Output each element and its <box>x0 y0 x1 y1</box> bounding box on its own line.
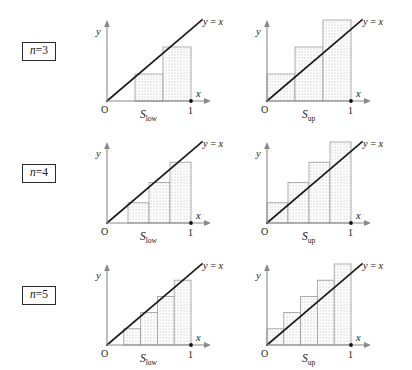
n-label-box-n3: n=3 <box>22 42 56 61</box>
y-axis-arrow-icon <box>264 20 270 27</box>
x-tick-dot-one <box>189 221 193 225</box>
origin-label: O <box>261 226 268 237</box>
function-label-y: y <box>362 138 368 149</box>
lower-sum-subscript: low <box>146 236 158 245</box>
x-tick-dot-one <box>189 343 193 347</box>
x-tick-label-one: 1 <box>188 349 193 360</box>
x-axis-label: x <box>195 332 201 343</box>
function-label-equals: = <box>210 16 216 27</box>
riemann-rect <box>174 280 191 345</box>
y-axis-arrow-icon <box>104 264 110 271</box>
x-axis-arrow-icon <box>204 220 211 226</box>
x-axis-label: x <box>355 332 361 343</box>
y-axis-arrow-icon <box>104 20 110 27</box>
n-label-box-n4: n=4 <box>22 164 56 183</box>
x-tick-label-one: 1 <box>348 105 353 116</box>
panel-upper-n3: y x O 1 y=x Sup <box>250 6 400 122</box>
x-axis-arrow-icon <box>364 220 371 226</box>
y-axis-label: y <box>255 26 261 37</box>
n-label-value: 5 <box>42 288 48 300</box>
function-label-y: y <box>362 16 368 27</box>
upper-sum-subscript: up <box>308 358 316 367</box>
function-label-x: x <box>218 260 224 271</box>
x-tick-label-one: 1 <box>188 105 193 116</box>
y-axis-label: y <box>255 148 261 159</box>
origin-label: O <box>101 226 108 237</box>
lower-sum-subscript: low <box>146 358 158 367</box>
panel-lower-n4: y x O 1 y=x Slow <box>90 128 240 244</box>
panel-lower-n5: y x O 1 y=x Slow <box>90 250 240 366</box>
riemann-rect <box>149 183 170 224</box>
function-label-x: x <box>218 16 224 27</box>
x-tick-dot-one <box>349 221 353 225</box>
x-axis-arrow-icon <box>204 342 211 348</box>
figure-row-n5: n=5 y x O 1 y=x <box>0 246 412 368</box>
y-axis-arrow-icon <box>264 142 270 149</box>
x-tick-label-one: 1 <box>348 349 353 360</box>
function-label-y: y <box>202 138 208 149</box>
function-label: y=x <box>202 260 224 271</box>
figure-row-n4: n=4 y x O 1 y=x Slow <box>0 124 412 246</box>
riemann-rect <box>163 47 191 101</box>
origin-label: O <box>101 104 108 115</box>
lower-sum-label: Slow <box>140 352 158 367</box>
lower-sum-subscript: low <box>146 114 158 123</box>
panel-lower-n3: y x O 1 y=x Slow <box>90 6 240 122</box>
riemann-sum-figure: n=3 y x O 1 y= <box>0 0 412 370</box>
x-tick-dot-one <box>189 99 193 103</box>
lower-sum-label: Slow <box>140 230 158 245</box>
n-label-value: 3 <box>42 44 48 56</box>
y-axis-label: y <box>95 270 101 281</box>
function-label-x: x <box>378 16 384 27</box>
function-label-x: x <box>378 138 384 149</box>
origin-label: O <box>261 348 268 359</box>
upper-sum-label: Sup <box>302 352 316 367</box>
origin-label: O <box>261 104 268 115</box>
riemann-rect <box>124 329 141 345</box>
y-axis-arrow-icon <box>104 142 110 149</box>
x-tick-dot-one <box>349 343 353 347</box>
function-label-x: x <box>218 138 224 149</box>
x-axis-label: x <box>195 88 201 99</box>
function-label-equals: = <box>210 260 216 271</box>
function-label-equals: = <box>370 138 376 149</box>
y-axis-label: y <box>255 270 261 281</box>
function-label-y: y <box>362 260 368 271</box>
riemann-rect <box>141 313 158 345</box>
x-axis-arrow-icon <box>364 98 371 104</box>
upper-sum-label: Sup <box>302 108 316 123</box>
function-label-equals: = <box>210 138 216 149</box>
function-label-y: y <box>202 260 208 271</box>
x-axis-arrow-icon <box>364 342 371 348</box>
upper-sum-subscript: up <box>308 114 316 123</box>
panel-upper-n5: y x O 1 y=x Sup <box>250 250 400 366</box>
x-axis-arrow-icon <box>204 98 211 104</box>
y-axis-label: y <box>95 148 101 159</box>
x-tick-label-one: 1 <box>348 227 353 238</box>
function-label-equals: = <box>370 16 376 27</box>
x-axis-label: x <box>195 210 201 221</box>
riemann-rect <box>170 162 191 223</box>
n-label-box-n5: n=5 <box>22 286 56 305</box>
riemann-rect <box>135 74 163 101</box>
function-label-equals: = <box>370 260 376 271</box>
lower-sum-label: Slow <box>140 108 158 123</box>
function-label-x: x <box>378 260 384 271</box>
upper-sum-subscript: up <box>308 236 316 245</box>
function-label: y=x <box>362 16 384 27</box>
riemann-rect <box>128 203 149 223</box>
figure-row-n3: n=3 y x O 1 y= <box>0 2 412 124</box>
panel-upper-n4: y x O 1 y=x Sup <box>250 128 400 244</box>
function-label: y=x <box>362 138 384 149</box>
function-label: y=x <box>202 16 224 27</box>
n-label-value: 4 <box>42 166 48 178</box>
function-label: y=x <box>202 138 224 149</box>
upper-sum-label: Sup <box>302 230 316 245</box>
x-axis-label: x <box>355 88 361 99</box>
function-label: y=x <box>362 260 384 271</box>
function-label-y: y <box>202 16 208 27</box>
x-tick-label-one: 1 <box>188 227 193 238</box>
x-tick-dot-one <box>349 99 353 103</box>
y-axis-arrow-icon <box>264 264 270 271</box>
origin-label: O <box>101 348 108 359</box>
